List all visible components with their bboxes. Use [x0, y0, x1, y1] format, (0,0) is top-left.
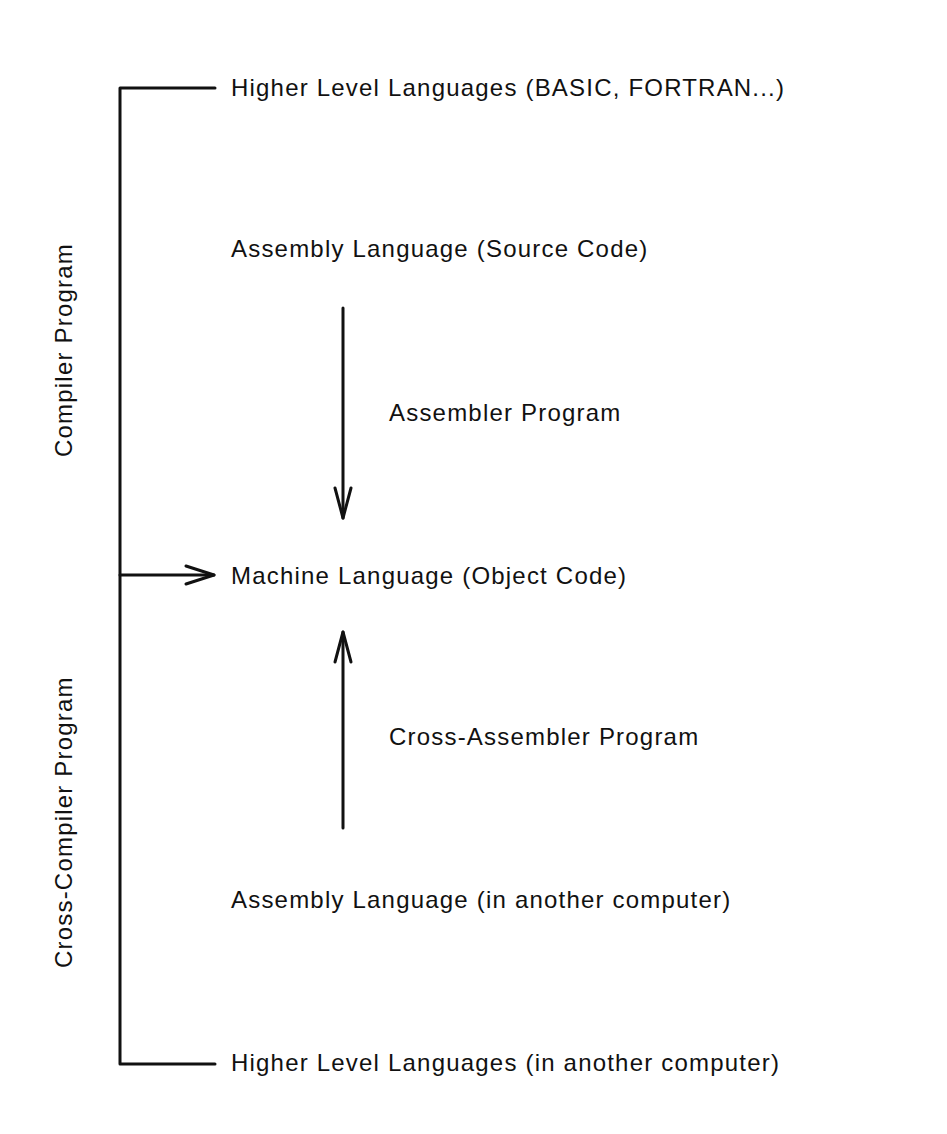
- edge-label-cross-assembler-program: Cross-Assembler Program: [389, 725, 699, 749]
- edge-label-assembler-program: Assembler Program: [389, 401, 621, 425]
- node-machine-language: Machine Language (Object Code): [231, 564, 627, 588]
- edge-label-cross-compiler-program: Cross-Compiler Program: [52, 676, 76, 968]
- node-higher-level-languages-top: Higher Level Languages (BASIC, FORTRAN..…: [231, 76, 785, 100]
- edge-label-compiler-program: Compiler Program: [52, 243, 76, 457]
- node-assembly-language-source: Assembly Language (Source Code): [231, 237, 648, 261]
- node-assembly-language-other: Assembly Language (in another computer): [231, 888, 731, 912]
- node-higher-level-languages-bottom: Higher Level Languages (in another compu…: [231, 1051, 780, 1075]
